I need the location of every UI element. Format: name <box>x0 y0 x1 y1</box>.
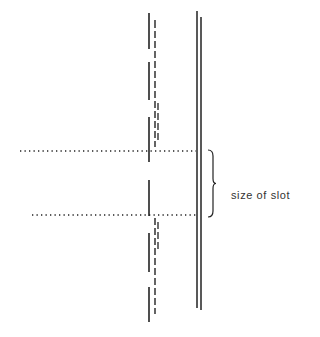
dotted-guide-lines <box>20 151 196 215</box>
slot-wall-double-line <box>197 11 201 310</box>
slot-diagram <box>0 0 320 337</box>
curly-brace-icon <box>208 150 216 217</box>
size-of-slot-label: size of slot <box>231 189 290 201</box>
